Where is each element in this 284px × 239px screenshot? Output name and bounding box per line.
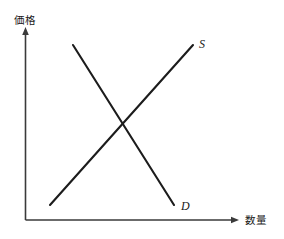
demand-curve [73, 45, 174, 205]
supply-curve [50, 45, 193, 205]
diagram-canvas: 価格 数量 S D [0, 0, 284, 239]
x-axis-label: 数量 [245, 214, 267, 226]
supply-demand-diagram: 価格 数量 S D [0, 0, 284, 239]
x-axis-arrow-icon [231, 217, 239, 224]
demand-curve-label: D [180, 199, 190, 213]
y-axis-label: 価格 [14, 14, 36, 26]
y-axis-arrow-icon [22, 27, 29, 35]
supply-curve-label: S [199, 37, 205, 51]
